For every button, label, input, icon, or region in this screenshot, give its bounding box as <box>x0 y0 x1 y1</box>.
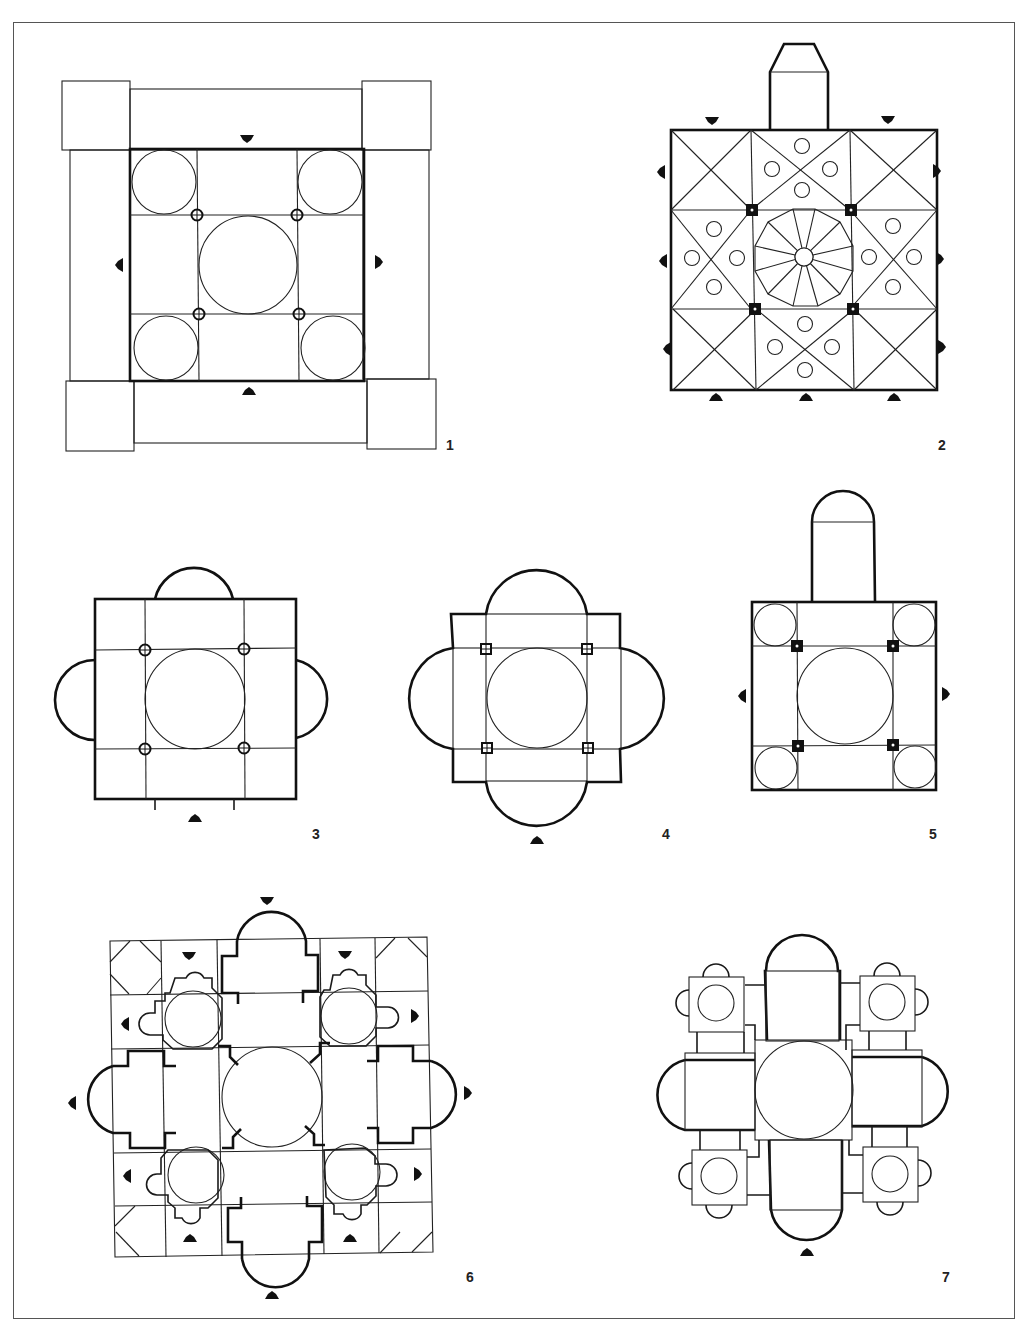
corner-chapel <box>139 972 222 1049</box>
plan-7 <box>657 935 947 1256</box>
corner-tower <box>842 1126 931 1215</box>
plan-label-1: 1 <box>446 437 454 453</box>
corner-tower <box>840 963 928 1050</box>
plan-label-4: 4 <box>662 826 670 842</box>
corner-chapel <box>320 969 399 1046</box>
plan-4 <box>409 570 664 844</box>
plan-label-3: 3 <box>312 826 320 842</box>
corner-chapel <box>324 1144 397 1220</box>
corner-tower <box>679 1130 770 1218</box>
plan-label-5: 5 <box>929 826 937 842</box>
corner-chapel <box>147 1147 225 1224</box>
corner-tower <box>676 964 765 1053</box>
plan-2 <box>657 44 946 401</box>
entrance-marker-icon <box>242 387 256 395</box>
entrance-marker-icon <box>375 255 383 269</box>
entrance-marker-icon <box>115 258 123 272</box>
plan-label-2: 2 <box>938 437 946 453</box>
plan-5 <box>738 491 950 790</box>
entrance-marker-icon <box>240 135 254 143</box>
plan-label-6: 6 <box>466 1269 474 1285</box>
plan-1 <box>62 81 436 451</box>
plan-label-7: 7 <box>942 1269 950 1285</box>
plan-6 <box>68 897 472 1299</box>
plans-canvas <box>0 0 1032 1335</box>
plan-3 <box>55 568 327 822</box>
ribbed-dome <box>755 209 853 306</box>
